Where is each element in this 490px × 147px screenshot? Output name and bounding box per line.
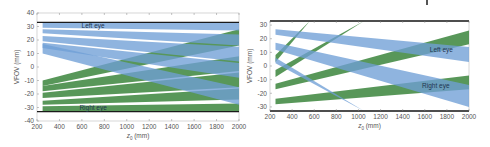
right-eye-label: Right eye [79, 104, 107, 112]
left-xtick-label: 800 [99, 123, 110, 130]
left-xtick-label: 600 [76, 123, 87, 130]
right-ylabel: VFOV (mm) [246, 49, 254, 84]
cropped-glyph [426, 0, 428, 5]
right-xtick-label: 600 [309, 113, 320, 120]
left-ytick-label: -30 [25, 104, 35, 111]
right-ytick-label: -30 [258, 103, 268, 110]
left-xtick-label: 200 [32, 123, 43, 130]
chart-right-svg: -30-20-100102030200400600800100012001400… [245, 0, 490, 147]
right-xtick-label: 1000 [351, 113, 366, 120]
left-ytick-label: 30 [27, 23, 35, 30]
chart-right: -30-20-100102030200400600800100012001400… [245, 0, 490, 147]
right-xtick-label: 2000 [462, 113, 477, 120]
right-bands [276, 21, 469, 111]
right-eye-label: Right eye [422, 82, 450, 90]
right-ytick-label: 10 [260, 49, 268, 56]
right-ytick-label: 20 [260, 35, 268, 42]
left-eye-band [43, 22, 239, 30]
left-xtick-label: 1800 [209, 123, 224, 130]
left-xtick-label: 1000 [120, 123, 135, 130]
left-ytick-label: 20 [27, 36, 35, 43]
right-ytick-label: -10 [258, 76, 268, 83]
right-ytick-label: -20 [258, 90, 268, 97]
left-ytick-label: 0 [30, 63, 34, 70]
left-ytick-label: 10 [27, 50, 35, 57]
left-ytick-label: 40 [27, 9, 35, 16]
left-ytick-label: -20 [25, 90, 35, 97]
left-xtick-label: 400 [54, 123, 65, 130]
left-eye-label: Left eye [82, 22, 106, 30]
left-ylabel: VFOV (mm) [13, 50, 21, 85]
left-xlabel: z0 (mm) [126, 132, 150, 141]
chart-left-svg: -40-30-20-100102030402004006008001000120… [0, 0, 245, 147]
left-xtick-label: 1600 [187, 123, 202, 130]
left-ytick-label: -10 [25, 77, 35, 84]
right-xtick-label: 200 [265, 113, 276, 120]
right-eye-band [43, 103, 239, 111]
right-xtick-label: 1400 [395, 113, 410, 120]
right-xtick-label: 1200 [373, 113, 388, 120]
right-xtick-label: 1800 [440, 113, 455, 120]
right-xtick-label: 1600 [418, 113, 433, 120]
left-eye-label: Left eye [430, 46, 454, 54]
left-bands [43, 22, 239, 111]
chart-left: -40-30-20-100102030402004006008001000120… [0, 0, 245, 147]
right-xtick-label: 800 [331, 113, 342, 120]
left-xtick-label: 1400 [164, 123, 179, 130]
right-ytick-label: 0 [263, 62, 267, 69]
left-xtick-label: 1200 [142, 123, 157, 130]
right-ytick-label: 30 [260, 21, 268, 28]
right-xlabel: z0 (mm) [357, 122, 381, 131]
right-xtick-label: 400 [287, 113, 298, 120]
